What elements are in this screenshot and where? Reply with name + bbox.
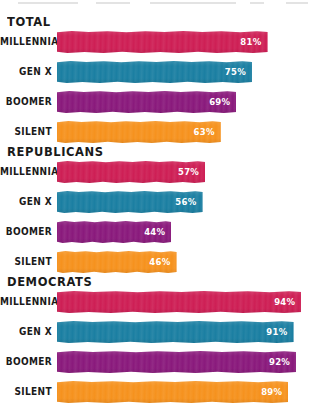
bar-row: BOOMER69% [0, 90, 332, 114]
scan-crop-marks [0, 2, 332, 7]
bar-boomer: 69% [57, 91, 236, 113]
bar-row: BOOMER92% [0, 350, 332, 374]
bar-value-label: 44% [144, 220, 165, 244]
bar-row: BOOMER44% [0, 220, 332, 244]
bar-category-label: SILENT [0, 119, 52, 145]
bar-gen-x: 75% [57, 61, 252, 83]
bar-millennial: 94% [57, 291, 301, 313]
bar-row: GEN X91% [0, 320, 332, 344]
bar-millennial: 57% [57, 161, 205, 183]
bar-category-label: BOOMER [0, 89, 52, 115]
bar-value-label: 91% [266, 320, 287, 344]
bar-value-label: 56% [175, 190, 196, 214]
bar-value-label: 57% [178, 160, 199, 184]
bar-silent: 63% [57, 121, 221, 143]
bar-row: MILLENNIAL94% [0, 290, 332, 314]
bar-category-label: BOOMER [0, 219, 52, 245]
bar-row: GEN X56% [0, 190, 332, 214]
bar-value-label: 94% [274, 290, 295, 314]
bar-gen-x: 91% [57, 321, 294, 343]
bar-category-label: BOOMER [0, 349, 52, 375]
bar-row: SILENT63% [0, 120, 332, 144]
bar-value-label: 63% [194, 120, 215, 144]
bar-category-label: MILLENNIAL [0, 289, 52, 315]
bar-value-label: 75% [225, 60, 246, 84]
section-title: TOTAL [7, 14, 51, 30]
bar-value-label: 46% [149, 250, 170, 274]
bar-row: SILENT46% [0, 250, 332, 274]
bar-silent: 89% [57, 381, 288, 403]
section-title: DEMOCRATS [7, 274, 92, 290]
bar-row: SILENT89% [0, 380, 332, 404]
bar-value-label: 69% [209, 90, 230, 114]
bar-row: GEN X75% [0, 60, 332, 84]
bar-category-label: GEN X [0, 59, 52, 85]
bar-row: MILLENNIAL81% [0, 30, 332, 54]
bar-category-label: SILENT [0, 249, 52, 275]
bar-category-label: GEN X [0, 319, 52, 345]
bar-value-label: 81% [240, 30, 261, 54]
bar-category-label: GEN X [0, 189, 52, 215]
bar-value-label: 89% [261, 380, 282, 404]
bar-value-label: 92% [269, 350, 290, 374]
bar-boomer: 44% [57, 221, 171, 243]
bar-category-label: SILENT [0, 379, 52, 405]
section-title: REPUBLICANS [7, 144, 104, 160]
bar-category-label: MILLENNIAL [0, 159, 52, 185]
bar-category-label: MILLENNIAL [0, 29, 52, 55]
bar-boomer: 92% [57, 351, 296, 373]
bar-row: MILLENNIAL57% [0, 160, 332, 184]
bar-gen-x: 56% [57, 191, 203, 213]
bar-silent: 46% [57, 251, 177, 273]
bar-millennial: 81% [57, 31, 268, 53]
